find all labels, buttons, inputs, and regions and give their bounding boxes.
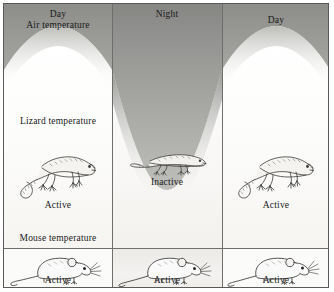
air-temperature-curve-day-left <box>4 4 112 248</box>
mouse-state-day-left: Active <box>4 275 112 285</box>
lizard-state-day-left: Active <box>4 200 112 210</box>
air-temperature-curve-night <box>112 4 222 248</box>
panel-divider-right <box>222 4 223 288</box>
mouse-state-night: Active <box>112 275 222 285</box>
panel-night <box>112 4 222 248</box>
panel-divider-left <box>112 4 113 288</box>
column-header-night: Night <box>112 9 222 19</box>
column-header-day-right: Day <box>222 15 329 25</box>
mouse-temperature-label: Mouse temperature <box>4 233 112 243</box>
panel-day-right <box>222 4 329 248</box>
lizard-temperature-label: Lizard temperature <box>4 116 112 126</box>
column-header-day-left: Day <box>4 9 112 19</box>
mouse-state-day-right: Active <box>222 275 329 285</box>
figure-frame: Day Air temperature Night Day Lizard tem… <box>3 3 329 288</box>
air-temperature-curve-day-right <box>222 4 329 248</box>
thermoregulation-figure: Day Air temperature Night Day Lizard tem… <box>0 0 334 292</box>
panel-day-left <box>4 4 112 248</box>
lizard-state-night: Inactive <box>112 177 222 187</box>
lizard-icon <box>12 144 104 202</box>
lizard-icon <box>232 144 320 200</box>
lizard-state-day-right: Active <box>222 200 329 210</box>
air-temperature-label: Air temperature <box>4 20 112 30</box>
